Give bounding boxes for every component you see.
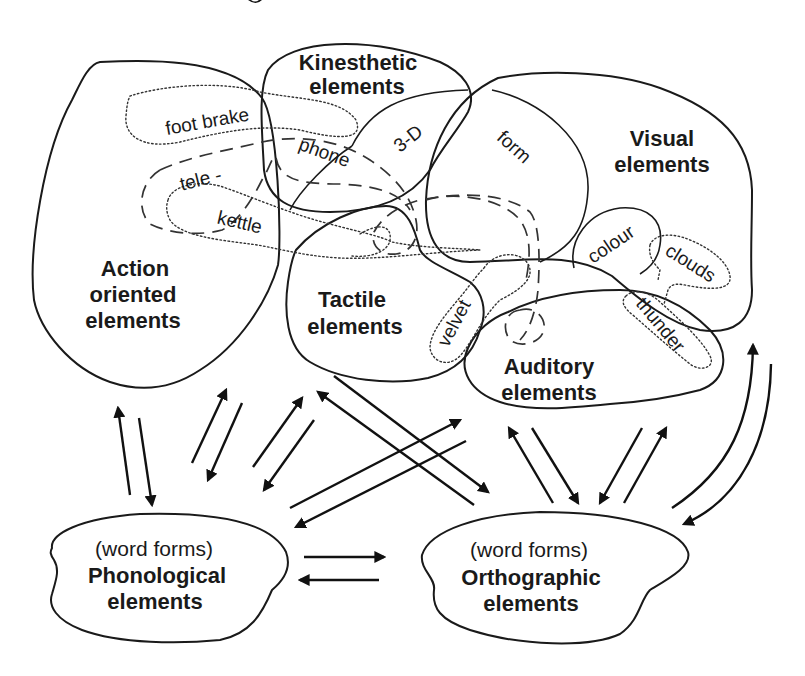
arrow-orthographic-to-visual — [672, 345, 753, 508]
concept-form: form — [493, 126, 535, 167]
arrow-auditory-to-orthographic-2 — [600, 428, 642, 503]
kinesthetic-region-label-line1: Kinesthetic — [299, 50, 418, 75]
visual-region-label-line1: Visual — [630, 126, 694, 151]
visual-region-label-line2: elements — [614, 152, 709, 177]
multimodal-semantic-diagram: Action oriented elements Kinesthetic ele… — [0, 0, 805, 676]
concept-kettle: kettle — [215, 207, 264, 238]
concept-foot-brake: foot brake — [164, 104, 251, 139]
concept-colour: colour — [583, 221, 638, 268]
tactile-region-label-line2: elements — [307, 314, 402, 339]
arrow-auditory-to-phonological — [296, 441, 466, 527]
phonological-region-label-line1: Phonological — [88, 563, 226, 588]
action-region-label-line2: oriented — [90, 282, 177, 307]
form-subregion-boundary — [492, 90, 588, 262]
arrow-orthographic-to-auditory-2 — [624, 428, 666, 503]
orthographic-qualifier: (word forms) — [470, 538, 588, 561]
phonological-region-label-line2: elements — [107, 589, 202, 614]
orthographic-region-label-line2: elements — [483, 591, 578, 616]
auditory-phone-loop — [505, 309, 544, 344]
auditory-region-label-line1: Auditory — [504, 354, 595, 379]
arrow-kinesthetic-to-phonological — [208, 403, 242, 480]
title-fragment — [248, 0, 262, 3]
concept-clouds: clouds — [662, 240, 720, 287]
arrow-auditory-to-orthographic — [532, 428, 578, 503]
arrow-action-to-phonological — [139, 418, 152, 505]
kettle-concept-outline — [167, 184, 480, 259]
arrow-visual-to-orthographic — [684, 364, 771, 524]
arrow-tactile-to-phonological — [264, 420, 314, 490]
arrow-phonological-to-action — [118, 408, 130, 495]
concept-3d: 3-D — [389, 121, 426, 156]
concept-tele: tele - — [178, 164, 224, 195]
arrow-phonological-to-tactile — [253, 398, 302, 467]
concept-velvet: velvet — [433, 296, 475, 350]
action-region-label-line1: Action — [101, 256, 169, 281]
arrow-orthographic-to-auditory — [509, 428, 553, 503]
tactile-region-label-line1: Tactile — [318, 287, 386, 312]
phonological-qualifier: (word forms) — [95, 537, 213, 560]
kinesthetic-region-label-line2: elements — [309, 74, 404, 99]
action-region-label-line3: elements — [85, 308, 180, 333]
auditory-region-label-line2: elements — [501, 380, 596, 405]
concept-phone: phone — [296, 133, 353, 171]
orthographic-region-label-line1: Orthographic — [461, 565, 600, 590]
